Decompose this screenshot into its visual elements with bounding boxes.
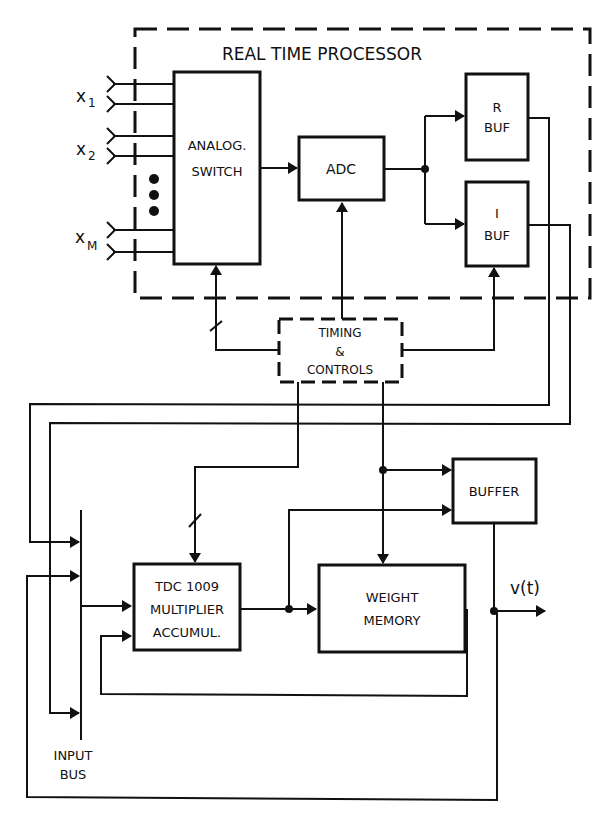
ellipsis-dots — [149, 174, 159, 216]
output-label: v(t) — [510, 578, 540, 598]
i-buf-label-2: BUF — [484, 228, 510, 243]
junction-dot — [421, 165, 429, 173]
weight-memory-label-2: MEMORY — [363, 613, 420, 628]
timing-label-2: & — [335, 345, 344, 359]
i-buf-block — [466, 182, 528, 266]
input-xm-label: x — [75, 227, 85, 247]
adc-label: ADC — [326, 161, 356, 177]
input-x1-label: x — [76, 86, 86, 106]
input-bus-label-2: BUS — [60, 767, 87, 782]
processor-title: REAL TIME PROCESSOR — [222, 44, 422, 64]
input-x2-subscript: 2 — [88, 149, 96, 163]
r-buf-block — [466, 74, 528, 160]
input-x1-subscript: 1 — [88, 96, 96, 110]
input-lines — [107, 76, 174, 260]
r-buf-label-2: BUF — [484, 120, 510, 135]
input-labels: x 1 x 2 x M — [75, 86, 97, 253]
tdc-label-2: MULTIPLIER — [150, 602, 224, 617]
input-bus-label-1: INPUT — [54, 748, 93, 763]
i-buf-label-1: I — [495, 206, 499, 221]
analog-switch-label-1: ANALOG. — [188, 138, 247, 153]
block-diagram: REAL TIME PROCESSOR x 1 x 2 x M ANALOG. … — [0, 0, 610, 828]
input-xm-subscript: M — [87, 239, 97, 253]
r-buf-label-1: R — [492, 100, 501, 115]
weight-memory-label-1: WEIGHT — [366, 590, 419, 605]
input-x2-label: x — [76, 139, 86, 159]
analog-switch-label-2: SWITCH — [192, 164, 243, 179]
timing-label-3: CONTROLS — [307, 363, 373, 377]
weight-memory-block — [319, 565, 465, 652]
timing-to-tdc-wire — [195, 382, 298, 560]
tdc-label-1: TDC 1009 — [154, 579, 219, 594]
tdc-label-3: ACCUMUL. — [153, 625, 221, 640]
buffer-label: BUFFER — [469, 484, 520, 499]
timing-label-1: TIMING — [317, 326, 361, 340]
